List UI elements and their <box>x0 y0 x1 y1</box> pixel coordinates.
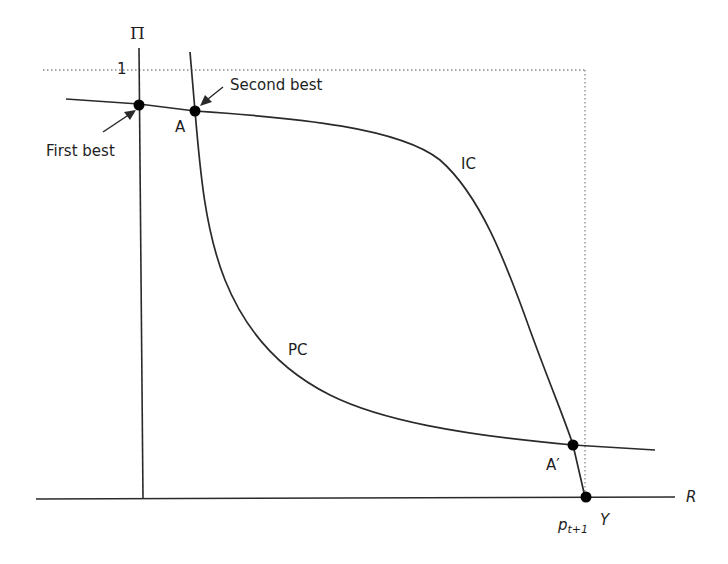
diagram-canvas <box>0 0 728 564</box>
point-a <box>190 106 201 117</box>
r-axis <box>36 497 675 499</box>
price-symbol: p <box>558 516 568 534</box>
pi-axis <box>139 48 143 499</box>
point-a-label: A <box>175 120 185 135</box>
ic-curve-label: IC <box>461 157 476 172</box>
second-best-label: Second best <box>230 78 322 93</box>
pc-curve-label: PC <box>288 343 308 358</box>
point-y-label: Y <box>600 513 609 528</box>
first-best-arrowhead <box>124 110 136 120</box>
point-a-prime-label: A′ <box>546 458 560 473</box>
pi-axis-label: Π <box>130 25 145 42</box>
first-best-label: First best <box>46 144 115 159</box>
pi-one-tick-label: 1 <box>117 62 127 77</box>
point-a-prime <box>568 440 579 451</box>
r-axis-label: R <box>686 490 696 505</box>
point-y <box>581 492 592 503</box>
price-label: pt+1 <box>558 518 588 535</box>
first-best-point <box>134 100 145 111</box>
price-subscript: t+1 <box>568 523 589 536</box>
diagram-figure: Π 1 Second best First best A IC PC A′ R … <box>0 0 728 564</box>
